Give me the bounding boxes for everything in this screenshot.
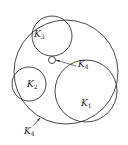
small-circle [49, 57, 56, 64]
arrowhead-icon [56, 60, 60, 62]
outer-circle [14, 20, 118, 124]
tangent-circles-diagram: K3 K4 K2 K1 K4 [0, 0, 128, 145]
label-k3: K3 [33, 29, 45, 40]
label-outer: K4 [23, 126, 35, 137]
label-small: K4 [77, 59, 89, 70]
label-k2: K2 [26, 79, 38, 90]
label-k1: K1 [80, 98, 92, 109]
